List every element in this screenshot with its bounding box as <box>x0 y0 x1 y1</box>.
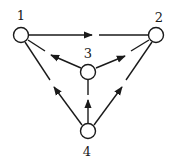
node-label: 1 <box>17 8 25 23</box>
node-label: 4 <box>83 144 91 159</box>
node-circle <box>14 28 29 43</box>
node-circle <box>81 65 96 80</box>
node-1: 1 <box>14 8 29 43</box>
node-3: 3 <box>81 46 96 80</box>
node-4: 4 <box>81 124 96 160</box>
directed-graph-diagram: 1 2 3 4 <box>0 0 173 164</box>
edge-4-to-2 <box>94 42 152 125</box>
edge-3-to-2 <box>96 40 149 68</box>
node-circle <box>149 28 164 43</box>
node-circle <box>81 124 96 139</box>
node-label: 2 <box>155 10 163 25</box>
node-label: 3 <box>84 46 92 61</box>
edge-4-to-1 <box>25 42 82 125</box>
edge-3-to-1 <box>28 40 81 68</box>
node-2: 2 <box>149 10 164 43</box>
